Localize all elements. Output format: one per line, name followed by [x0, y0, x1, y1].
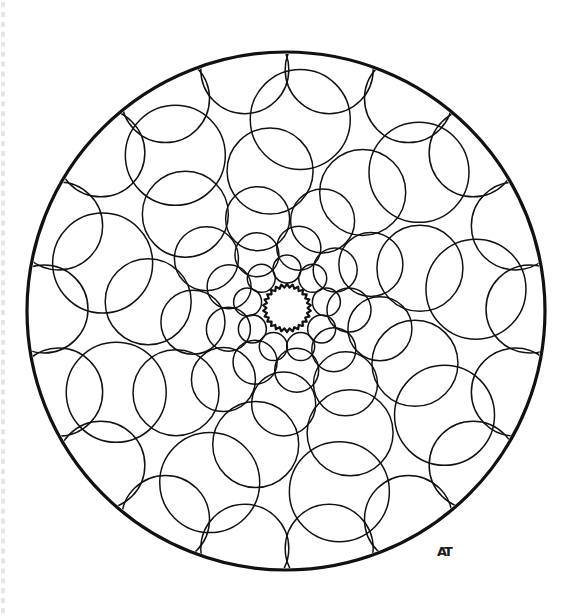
binding-dash [1, 608, 5, 613]
binding-dash [1, 380, 5, 385]
binding-dash [1, 52, 5, 57]
binding-dash [1, 270, 5, 275]
binding-dash [1, 181, 5, 186]
binding-dash [1, 509, 5, 514]
binding-dash [1, 280, 5, 285]
artist-signature: AT [437, 544, 453, 559]
binding-dash [1, 111, 5, 116]
binding-dash [1, 330, 5, 335]
binding-dash [1, 429, 5, 434]
binding-dash [1, 370, 5, 375]
binding-dash [1, 519, 5, 524]
binding-dash [1, 419, 5, 424]
binding-dash [1, 578, 5, 583]
binding-dash [1, 449, 5, 454]
binding-dash [1, 2, 5, 7]
binding-dash [1, 260, 5, 265]
binding-dash [1, 250, 5, 255]
binding-dash [1, 81, 5, 86]
binding-dash [1, 529, 5, 534]
binding-dash [1, 290, 5, 295]
binding-dash [1, 340, 5, 345]
binding-dash [1, 22, 5, 27]
binding-dash [1, 350, 5, 355]
binding-dash [1, 101, 5, 106]
binding-dash [1, 211, 5, 216]
binding-dash [1, 588, 5, 593]
binding-dash [1, 42, 5, 47]
binding-dash [1, 360, 5, 365]
binding-dash [1, 310, 5, 315]
binding-dash [1, 320, 5, 325]
binding-dash [1, 171, 5, 176]
binding-dash [1, 539, 5, 544]
scalloped-center-path [263, 284, 311, 332]
coloring-page: AT [0, 0, 587, 616]
binding-dash [1, 231, 5, 236]
binding-dash [1, 399, 5, 404]
binding-dash [1, 548, 5, 553]
binding-dash [1, 91, 5, 96]
binding-dash [1, 12, 5, 17]
binding-dash [1, 72, 5, 77]
binding-dash [1, 499, 5, 504]
binding-dash [1, 161, 5, 166]
binding-dash [1, 409, 5, 414]
binding-dash [1, 141, 5, 146]
binding-dash [1, 191, 5, 196]
binding-dash [1, 568, 5, 573]
binding-dash [1, 389, 5, 394]
binding-dash [1, 240, 5, 245]
binding-dash [1, 479, 5, 484]
binding-dash [1, 459, 5, 464]
scalloped-center-group [263, 284, 311, 332]
binding-dash [1, 32, 5, 37]
binding-dash [1, 469, 5, 474]
binding-dash [1, 598, 5, 603]
binding-dash [1, 558, 5, 563]
mandala-artwork: AT [0, 0, 587, 616]
binding-dash [1, 62, 5, 67]
binding-dash [1, 131, 5, 136]
binding-dash [1, 121, 5, 126]
binding-dash [1, 300, 5, 305]
binding-dash [1, 439, 5, 444]
binding-dash [1, 151, 5, 156]
binding-dash [1, 489, 5, 494]
binding-dash [1, 221, 5, 226]
binding-dash [1, 201, 5, 206]
